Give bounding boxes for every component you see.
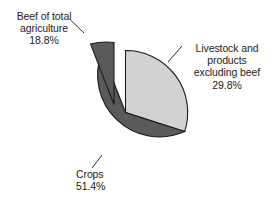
pie-chart-figure: Beef of total agriculture 18.8% Livestoc… (0, 0, 273, 210)
pie-label-livestock-line1: Livestock and (184, 42, 270, 54)
pie-label-livestock: Livestock and products excluding beef 29… (184, 42, 270, 91)
pie-label-crops-percent: 51.4% (76, 180, 146, 192)
pie-label-beef-line2: agriculture (4, 22, 84, 34)
pie-label-crops: Crops 51.4% (76, 168, 146, 192)
pie-label-crops-line1: Crops (76, 168, 146, 180)
pie-label-livestock-percent: 29.8% (184, 79, 270, 91)
pie-label-beef-line1: Beef of total (4, 10, 84, 22)
pie-label-livestock-line3: excluding beef (184, 66, 270, 78)
pie-label-livestock-line2: products (184, 54, 270, 66)
pie-label-beef: Beef of total agriculture 18.8% (4, 10, 84, 47)
pie-label-beef-percent: 18.8% (4, 34, 84, 46)
leader-line-livestock (168, 46, 182, 62)
leader-line-crops (92, 155, 102, 168)
